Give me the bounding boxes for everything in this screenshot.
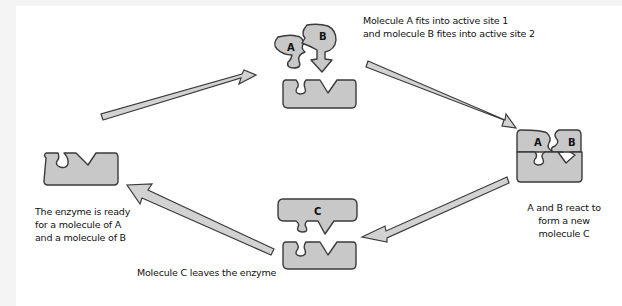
label-molecule-a-bound: A xyxy=(534,137,542,148)
svg-text:B: B xyxy=(319,31,327,42)
caption-line: A and B react to xyxy=(514,201,614,214)
enzyme-reaction: A B xyxy=(517,130,582,182)
label-molecule-c: C xyxy=(314,206,321,217)
label-molecule-b-bound: B xyxy=(568,137,576,148)
caption-line: form a new xyxy=(514,214,614,227)
enzyme xyxy=(283,242,356,269)
enzyme xyxy=(283,80,356,108)
arrow-reaction-to-release xyxy=(362,177,509,242)
arrow-ready-to-binding xyxy=(101,70,256,120)
enzyme-release: C xyxy=(278,199,357,269)
enzyme-binding: A B B xyxy=(275,24,356,108)
caption-ready: The enzyme is ready for a molecule of A … xyxy=(35,205,130,244)
caption-release: Molecule C leaves the enzyme xyxy=(137,266,276,279)
arrow-binding-to-reaction xyxy=(366,61,516,128)
label-molecule-a: A xyxy=(287,42,295,53)
enzyme-cycle-diagram: A B B A B C xyxy=(0,0,622,306)
caption-line: for a molecule of A xyxy=(35,218,130,231)
caption-line: and a molecule of B xyxy=(35,231,130,244)
caption-line: and molecule B fites into active site 2 xyxy=(363,27,535,40)
caption-binding: Molecule A fits into active site 1 and m… xyxy=(363,14,535,40)
caption-line: Molecule A fits into active site 1 xyxy=(363,14,535,27)
arrow-release-to-ready xyxy=(127,184,274,255)
caption-line: molecule C xyxy=(514,227,614,240)
caption-reaction: A and B react to form a new molecule C xyxy=(514,201,614,240)
caption-line: The enzyme is ready xyxy=(35,205,130,218)
enzyme-ready xyxy=(44,153,118,185)
caption-line: Molecule C leaves the enzyme xyxy=(137,266,276,279)
